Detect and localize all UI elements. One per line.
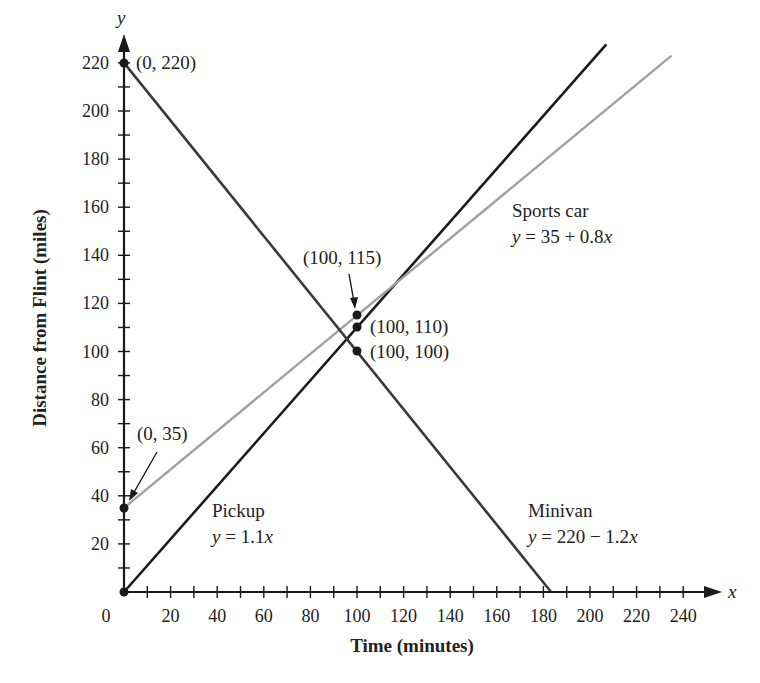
y-tick-label: 200 — [82, 101, 109, 121]
pickup-name: Pickup — [212, 500, 265, 521]
point-100-115 — [353, 311, 362, 320]
minivan-equation: y = 220 − 1.2x — [526, 526, 638, 547]
label-point-100-100: (100, 100) — [370, 341, 449, 363]
x-tick-label: 100 — [344, 606, 371, 626]
x-tick-label: 40 — [208, 606, 226, 626]
y-tick-label: 160 — [82, 197, 109, 217]
point-0-220 — [120, 59, 129, 68]
label-point-100-115: (100, 115) — [303, 247, 381, 269]
label-point-100-110: (100, 110) — [370, 316, 448, 338]
series-line-sports-car — [124, 56, 672, 508]
x-tick-label: 80 — [301, 606, 319, 626]
point-0-35 — [120, 504, 129, 513]
y-axis-arrow-icon — [118, 34, 130, 52]
annotation-arrows — [129, 274, 358, 501]
y-tick-label: 120 — [82, 293, 109, 313]
chart-canvas: 0204060801001201401601802002202402040608… — [0, 0, 760, 683]
y-tick-label: 40 — [91, 486, 109, 506]
point-100-100 — [353, 347, 362, 356]
x-axis-title: Time (minutes) — [350, 635, 474, 657]
series-line-minivan — [124, 63, 551, 592]
arrow-head-icon — [350, 297, 358, 309]
x-tick-label: 0 — [102, 606, 111, 626]
y-axis-letter: y — [115, 7, 126, 28]
x-tick-label: 180 — [530, 606, 557, 626]
x-tick-label: 140 — [437, 606, 464, 626]
x-tick-label: 240 — [670, 606, 697, 626]
sports-car-name: Sports car — [512, 200, 589, 221]
y-tick-label: 220 — [82, 53, 109, 73]
x-tick-label: 60 — [255, 606, 273, 626]
label-point-0-35: (0, 35) — [137, 423, 188, 445]
sports-car-equation: y = 35 + 0.8x — [510, 226, 613, 247]
x-tick-label: 220 — [623, 606, 650, 626]
y-tick-label: 100 — [82, 342, 109, 362]
x-tick-label: 120 — [390, 606, 417, 626]
x-axis-letter: x — [727, 581, 737, 602]
x-axis-arrow-icon — [704, 586, 722, 598]
x-tick-label: 160 — [483, 606, 510, 626]
label-point-0-220: (0, 220) — [136, 52, 196, 74]
y-tick-label: 20 — [91, 534, 109, 554]
y-tick-label: 80 — [91, 390, 109, 410]
y-tick-label: 180 — [82, 149, 109, 169]
minivan-name: Minivan — [528, 500, 593, 521]
x-tick-label: 200 — [577, 606, 604, 626]
point-100-110 — [353, 323, 362, 332]
x-tick-label: 20 — [162, 606, 180, 626]
y-tick-label: 60 — [91, 438, 109, 458]
y-axis-title: Distance from Flint (miles) — [29, 209, 51, 427]
pickup-equation: y = 1.1x — [210, 526, 273, 547]
point-origin — [120, 588, 129, 597]
y-tick-label: 140 — [82, 245, 109, 265]
